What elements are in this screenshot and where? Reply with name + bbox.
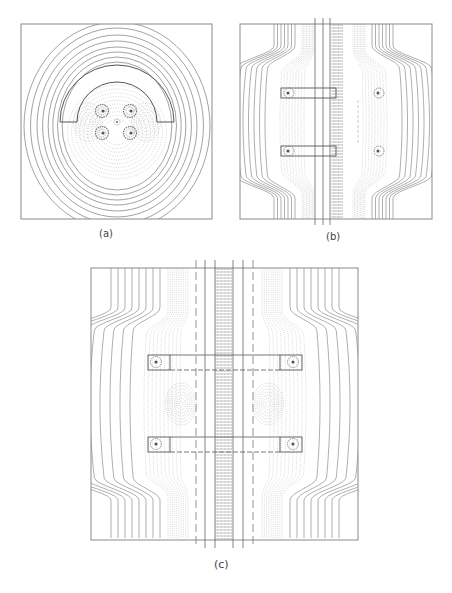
ion-core <box>377 150 380 153</box>
lobe-contour <box>257 389 279 419</box>
lobe-contour <box>264 398 273 410</box>
ion-core <box>154 442 157 445</box>
contour-line <box>48 47 186 205</box>
lobe-contour <box>134 106 158 138</box>
contour-dotted <box>104 119 131 145</box>
ion-core <box>287 150 290 153</box>
contour-dotted <box>273 268 290 538</box>
ion-core <box>101 131 104 134</box>
contour-line <box>339 268 390 538</box>
contour-dotted <box>72 89 163 175</box>
panel-a-electrode-arc <box>60 65 174 122</box>
lobe-contour <box>179 401 183 407</box>
contour-dotted <box>152 268 172 538</box>
ion-core <box>129 131 132 134</box>
ion-core <box>129 109 132 112</box>
contour-dotted <box>365 24 387 219</box>
contour-line <box>311 268 350 538</box>
lobe-contour <box>170 389 192 419</box>
contour-line <box>24 22 210 230</box>
contour-line <box>80 268 125 538</box>
contour-line <box>318 268 360 538</box>
panel-c <box>60 260 390 548</box>
contour-dotted <box>280 24 302 219</box>
center-node-core <box>116 121 118 123</box>
panel-a-label: (a) <box>99 228 113 239</box>
contour-dotted <box>80 97 155 168</box>
contour-dotted <box>267 268 278 538</box>
contour-line <box>100 268 139 538</box>
contour-line <box>325 268 370 538</box>
ion-core <box>154 360 157 363</box>
lobe-contour <box>78 109 97 135</box>
panel-b <box>232 18 435 225</box>
contour-line <box>110 268 146 538</box>
ion-core <box>291 442 294 445</box>
contour-line <box>238 24 278 219</box>
contour-line <box>393 24 435 219</box>
lobe-contour <box>172 392 190 416</box>
contour-dotted <box>355 24 367 219</box>
lobe-contour <box>177 398 186 410</box>
contour-line <box>290 268 320 538</box>
contour-line <box>232 24 274 219</box>
lobe-contour <box>255 386 281 422</box>
contour-figure <box>0 0 452 593</box>
contour-line <box>57 57 176 195</box>
contour-dotted <box>92 108 143 156</box>
contour-line <box>390 24 430 219</box>
contour-dotted <box>76 93 159 171</box>
contour-line <box>62 62 172 190</box>
contour-dotted <box>160 268 177 538</box>
contour-dotted <box>100 115 135 148</box>
contour-line <box>53 52 181 200</box>
contour-line <box>60 268 111 538</box>
ion-core <box>291 360 294 363</box>
contour-dotted <box>172 268 183 538</box>
ion-core <box>377 92 380 95</box>
ion-core <box>101 109 104 112</box>
contour-line <box>31 28 204 224</box>
contour-dotted <box>176 268 186 538</box>
panel-b-label: (b) <box>326 231 340 242</box>
ion-core <box>287 92 290 95</box>
lobe-contour <box>168 386 194 422</box>
contour-line <box>130 268 160 538</box>
contour-dotted <box>278 268 298 538</box>
panel-a <box>21 22 212 230</box>
contour-line <box>43 41 192 211</box>
contour-dotted <box>301 24 313 219</box>
lobe-contour <box>144 119 149 125</box>
lobe-contour <box>259 392 277 416</box>
lobe-contour <box>266 401 270 407</box>
lobe-contour <box>141 116 151 129</box>
contour-line <box>90 268 132 538</box>
contour-line <box>304 268 340 538</box>
panel-c-label: (c) <box>214 558 229 571</box>
contour-dotted <box>88 104 147 160</box>
